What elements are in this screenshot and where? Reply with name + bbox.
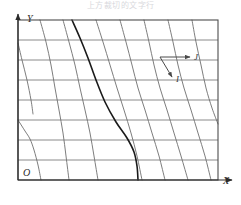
origin-label: O	[23, 167, 30, 178]
figure-root: 上方裁切的文字行	[0, 0, 241, 205]
x-axis-label: X	[222, 175, 230, 186]
coordinate-grid-diagram: J I Y X O	[0, 0, 241, 205]
